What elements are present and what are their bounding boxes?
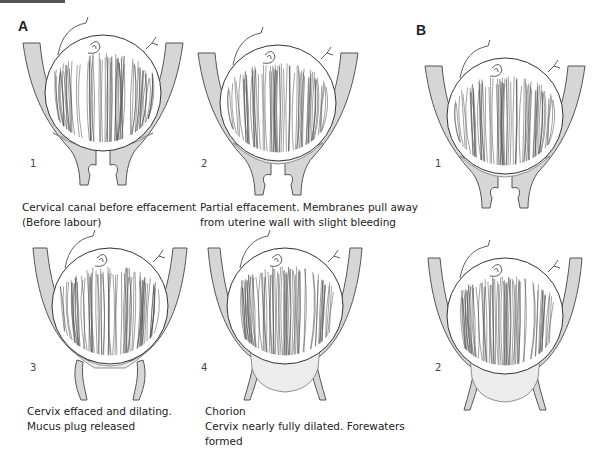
diagram-a3 — [25, 228, 195, 403]
fetal-head — [447, 58, 563, 174]
stage-number-a3: 3 — [30, 362, 36, 373]
diagram-a4 — [200, 228, 370, 403]
caption-a4: Chorion Cervix nearly fully dilated. For… — [205, 404, 405, 449]
fetal-hand — [153, 250, 165, 262]
panel-label-b: B — [416, 22, 426, 38]
stage-number-a1: 1 — [30, 158, 36, 169]
caption-a2: Partial effacement. Membranes pull away … — [200, 200, 418, 230]
header-rule — [0, 0, 65, 3]
stage-number-a4: 4 — [201, 362, 207, 373]
fetal-head — [220, 45, 336, 161]
diagram-b1 — [420, 38, 590, 198]
fetal-hand — [328, 250, 340, 262]
stage-number-b2: 2 — [435, 362, 441, 373]
fetal-hand — [321, 47, 333, 59]
fetal-hand — [548, 60, 560, 72]
caption-a3: Cervix effaced and dilating. Mucus plug … — [27, 404, 172, 434]
stage-number-b1: 1 — [435, 158, 441, 169]
caption-a1: Cervical canal before effacement (Before… — [22, 200, 196, 230]
fetal-hand — [146, 37, 158, 49]
diagram-b2 — [420, 238, 590, 398]
stage-number-a2: 2 — [201, 158, 207, 169]
diagram-a1 — [18, 15, 188, 190]
diagram-a2 — [193, 25, 363, 200]
fetal-hand — [548, 260, 560, 272]
